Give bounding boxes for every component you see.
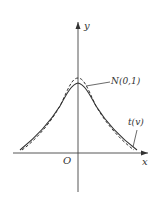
origin-label: O — [63, 156, 71, 166]
t-curve — [20, 83, 137, 150]
diagram-svg — [0, 0, 161, 202]
t-curve-label: t(v) — [128, 118, 144, 127]
x-axis-label: x — [142, 157, 148, 167]
normal-leader-line — [86, 82, 110, 86]
normal-curve-label: N(0,1) — [111, 77, 140, 86]
t-leader-line — [133, 130, 137, 147]
diagram-canvas: y x O N(0,1) t(v) — [0, 0, 161, 202]
y-axis-label: y — [84, 21, 90, 31]
